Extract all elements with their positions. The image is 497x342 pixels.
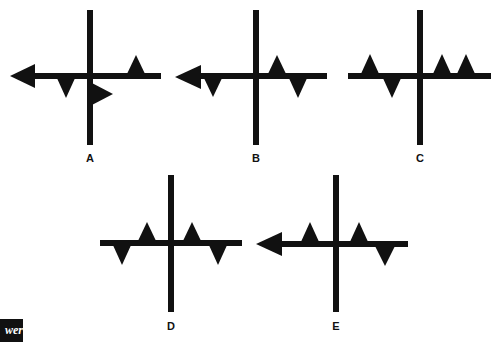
triangle-up-icon [137,222,157,243]
option-label-d: D [167,320,175,332]
triangle-up-icon [432,54,452,76]
option-e-figure[interactable] [256,175,408,312]
triangle-up-icon [182,222,202,243]
triangle-right-icon [90,82,113,106]
option-d-figure[interactable] [100,175,242,312]
option-label-a: A [86,152,94,164]
option-b-figure[interactable] [175,10,327,145]
triangle-down-icon [208,243,228,265]
triangle-up-icon [456,54,476,76]
triangle-down-icon [56,76,76,98]
triangle-up-icon [360,54,380,76]
option-label-c: C [416,152,424,164]
answer-options-diagram [0,0,497,342]
triangle-down-icon [112,243,132,265]
triangle-up-icon [300,222,320,244]
triangle-down-icon [203,76,223,97]
triangle-up-icon [267,55,287,76]
option-c-figure[interactable] [348,10,491,145]
option-label-e: E [332,320,339,332]
answer-tab[interactable]: wer [0,319,23,342]
triangle-down-icon [382,76,402,98]
arrow-left-icon [256,232,282,256]
arrow-left-icon [10,64,35,88]
triangle-down-icon [288,76,308,98]
option-a-figure[interactable] [10,10,161,145]
arrow-left-icon [175,65,201,89]
answer-tab-text: wer [5,323,23,337]
triangle-up-icon [349,222,369,244]
triangle-down-icon [374,244,396,266]
option-label-b: B [252,152,260,164]
triangle-up-icon [126,55,146,76]
